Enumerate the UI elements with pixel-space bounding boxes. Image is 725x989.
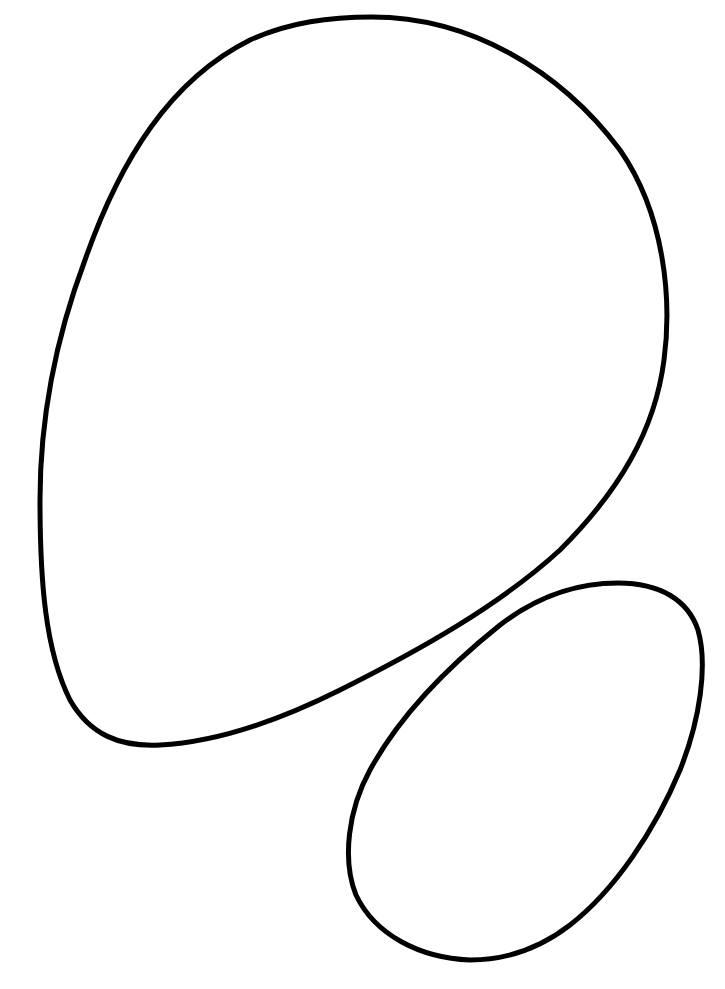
outline-drawing — [0, 0, 725, 989]
large-blob-outline — [40, 17, 667, 745]
drawing-canvas — [0, 0, 725, 989]
small-oval-outline — [348, 583, 702, 960]
